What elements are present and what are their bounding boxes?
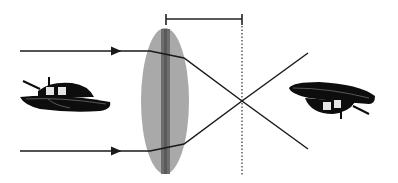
boat-object-icon	[20, 77, 110, 112]
convex-lens	[141, 28, 189, 174]
focal-length-bracket	[166, 14, 242, 25]
boat-image-inverted-icon	[289, 82, 375, 119]
lens-diagram	[0, 0, 398, 183]
